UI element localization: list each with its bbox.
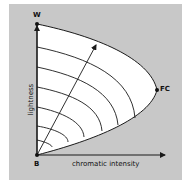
y-axis-label: lightness [28,76,35,124]
full-color-point [155,88,159,92]
white-point [35,22,39,26]
gamut-region [37,24,157,155]
black-point [35,153,39,157]
x-axis-label: chromatic intensity [72,161,140,168]
black-point-label: B [34,161,39,168]
full-color-point-label: FC [160,86,170,93]
white-point-label: W [33,12,41,19]
